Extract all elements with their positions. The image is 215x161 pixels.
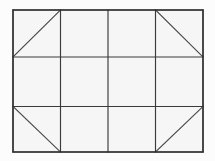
grid-diagram-svg [0, 0, 215, 161]
figure-canvas [0, 0, 215, 161]
